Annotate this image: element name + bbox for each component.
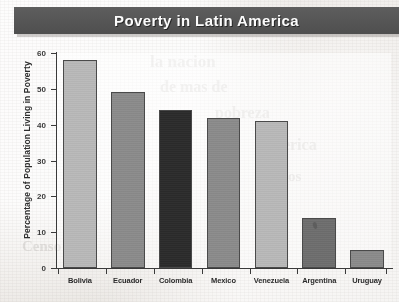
bar[interactable] [350,250,384,268]
bar[interactable] [111,92,145,268]
x-axis-category-label: Colombia [152,276,200,285]
x-axis-category-label: Ecuador [104,276,152,285]
y-axis-title: Percentage of Population Living in Pover… [22,45,32,255]
chart-title-banner: Poverty in Latin America [14,7,399,34]
bar[interactable] [207,118,241,269]
bar[interactable] [255,121,289,268]
bar[interactable] [63,60,97,268]
x-axis-tick [297,269,298,274]
x-axis-tick [154,269,155,274]
y-axis-tick-label: 50 [0,85,46,94]
x-axis-category-label: Bolivia [56,276,104,285]
y-axis-tick-label: 40 [0,121,46,130]
x-axis-tick [202,269,203,274]
x-axis-tick [250,269,251,274]
x-axis-tick [386,269,387,274]
y-axis-tick-label: 60 [0,49,46,58]
y-axis-tick-label: 0 [0,264,46,273]
page-title: Poverty in Latin America [114,12,299,29]
x-axis-tick [345,269,346,274]
x-axis-category-label: Uruguay [343,276,391,285]
bar-series [56,53,391,268]
y-axis-tick-label: 20 [0,192,46,201]
bar[interactable] [302,218,336,268]
x-axis-category-label: Mexico [200,276,248,285]
bar[interactable] [159,110,193,268]
y-axis-tick-label: 30 [0,157,46,166]
bar-chart: Percentage of Population Living in Pover… [0,40,399,302]
y-axis-tick-label: 10 [0,228,46,237]
x-axis-tick [58,269,59,274]
x-axis-category-label: Argentina [295,276,343,285]
x-axis-tick [106,269,107,274]
x-axis-category-label: Venezuela [247,276,295,285]
